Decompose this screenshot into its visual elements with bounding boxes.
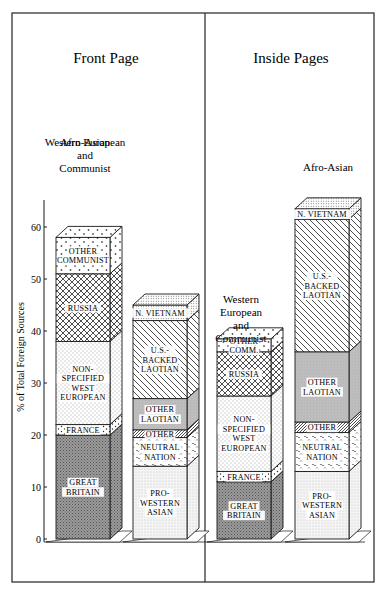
group-label: Communist [215,332,266,344]
segment-label: WEST [232,434,255,443]
segment-side [110,424,122,539]
segment-label: U.S.- [151,346,169,355]
segment-label: COMM. [230,346,259,355]
segment-label: NATION [144,453,176,462]
panel-title: Front Page [73,50,139,66]
group-label: Western [223,293,259,305]
segment-side [349,341,361,422]
y-tick-label: 0 [36,534,41,545]
segment-label: N. VIETNAM [297,210,347,219]
bars: GREATBRITAINFRANCENON-SPECIFIEDWESTEUROP… [46,198,371,542]
y-tick-label: 30 [31,378,41,389]
segment-label: NON- [233,415,254,424]
y-tick-label: 10 [31,482,41,493]
segment-label: NEUTRAL [302,443,342,452]
group-label: European [220,306,263,318]
segment-label: SPECIFIED [62,374,104,383]
segment-side [349,208,361,352]
segment-label: SPECIFIED [223,425,265,434]
segment-label: OTHER [146,430,175,439]
segment-label: BRITAIN [66,488,100,497]
bar-segment: N. VIETNAM [293,198,361,219]
segment-label: ASIAN [309,511,335,520]
segment-side [110,330,122,424]
bar-segment: PRO-WESTERNASIAN [133,455,199,539]
group-label: Communist [59,162,110,174]
segment-label: RUSSIA [229,370,259,379]
y-tick-label: 60 [31,222,41,233]
segment-label: PRO- [312,492,332,501]
bar-segment: U.S.-BACKEDLAOTIAN [295,208,361,352]
bar-segment: OTHERCOMMUNIST [56,226,122,273]
bar-segment: GREATBRITAIN [56,424,122,539]
bar-group: GREATBRITAINFRANCENON-SPECIFIEDWESTEUROP… [46,226,132,542]
segment-label: BRITAIN [227,511,261,520]
group-label: and [233,319,249,331]
segment-label: FRANCE [66,426,100,435]
bar-segment: NON-SPECIFIEDWESTEUROPEAN [217,385,283,471]
segment-label: FRANCE [227,473,261,482]
segment-label: NON- [72,365,93,374]
segment-label: LAOTIAN [141,415,179,424]
bar-segment: OTHERLAOTIAN [295,341,361,422]
y-axis-label: % of Total Foreign Sources [15,302,26,412]
group-label: Afro-Asian [303,161,354,173]
bar-group: PRO-WESTERNASIANNEUTRALNATIONOTHEROTHERL… [285,198,371,542]
bar-segment: PRO-WESTERNASIAN [295,460,361,539]
bar-segment: N. VIETNAM [131,294,199,321]
bar-group: GREATBRITAINFRANCENON-SPECIFIEDWESTEUROP… [207,328,293,542]
segment-side [271,385,283,471]
bar-segment: RUSSIA [56,263,122,342]
segment-label: WEST [71,384,94,393]
bar-segment: NON-SPECIFIEDWESTEUROPEAN [56,330,122,424]
bar-group: PRO-WESTERNASIANNEUTRALNATIONOTHEROTHERL… [123,294,209,542]
segment-label: OTHER [146,405,175,414]
group-label: and [77,149,93,161]
segment-label: N. VIETNAM [135,309,185,318]
segment-label: BACKED [143,356,178,365]
segment-side [187,310,199,399]
panel-title: Inside Pages [253,50,329,66]
y-tick-label: 40 [31,326,41,337]
segment-label: LAOTIAN [303,388,341,397]
segment-label: LAOTIAN [303,291,341,300]
segment-label: EUROPEAN [221,444,266,453]
segment-label: BACKED [305,282,340,291]
bar-segment: U.S.-BACKEDLAOTIAN [133,310,199,399]
segment-label: OTHER [308,378,337,387]
bar-top [56,226,122,237]
segment-side [110,263,122,342]
segment-label: NEUTRAL [140,443,180,452]
y-tick-label: 20 [31,430,41,441]
segment-label: LAOTIAN [141,365,179,374]
segment-label: WESTERN [140,499,180,508]
segment-label: OTHER [308,423,337,432]
segment-label: COMMUNIST [57,256,109,265]
segment-label: OTHER [69,247,98,256]
group-label: Afro-Asian [60,136,111,148]
y-tick-label: 50 [31,274,41,285]
segment-label: EUROPEAN [60,393,105,402]
bar-top [295,198,361,209]
segment-label: GREAT [69,478,96,487]
segment-label: PRO- [150,489,170,498]
segment-label: U.S.- [313,272,331,281]
segment-label: GREAT [230,502,257,511]
bar-top [133,294,199,305]
segment-side [187,455,199,539]
segment-side [271,471,283,539]
segment-side [349,460,361,539]
segment-label: WESTERN [302,501,342,510]
stacked-bar-chart: 0102030405060% of Total Foreign Sources … [0,0,383,593]
segment-label: NATION [306,453,338,462]
segment-label: ASIAN [147,508,173,517]
segment-label: RUSSIA [68,304,98,313]
